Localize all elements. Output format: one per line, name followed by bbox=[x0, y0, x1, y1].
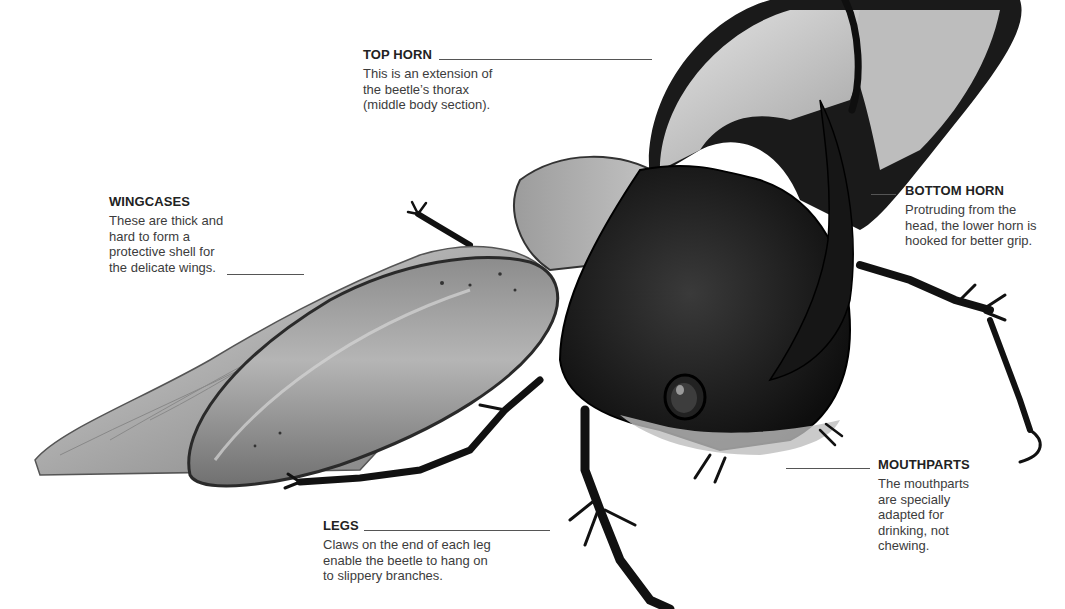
back-leg-upper bbox=[408, 202, 470, 245]
leader-line-bottom-horn bbox=[871, 194, 896, 195]
callout-title: WINGCASES bbox=[109, 194, 223, 210]
callout-legs: LEGS Claws on the end of each leg enable… bbox=[323, 518, 491, 584]
callout-mouthparts: MOUTHPARTS The mouthparts are specially … bbox=[878, 457, 970, 554]
leader-line-wingcases bbox=[227, 274, 304, 275]
callout-text: This is an extension of the beetle’s tho… bbox=[363, 66, 492, 113]
callout-title: LEGS bbox=[323, 518, 491, 534]
callout-bottom-horn: BOTTOM HORN Protruding from the head, th… bbox=[905, 183, 1037, 249]
front-leg-center bbox=[570, 410, 670, 609]
callout-title: TOP HORN bbox=[363, 47, 492, 63]
callout-text: Claws on the end of each leg enable the … bbox=[323, 537, 491, 584]
eye bbox=[665, 375, 705, 419]
callout-text: These are thick and hard to form a prote… bbox=[109, 213, 223, 275]
wingcase bbox=[189, 258, 558, 486]
leader-line-mouthparts bbox=[786, 468, 870, 469]
front-leg-right bbox=[860, 265, 1040, 462]
leader-line-legs bbox=[364, 530, 550, 531]
callout-text: The mouthparts are specially adapted for… bbox=[878, 476, 970, 554]
callout-title: MOUTHPARTS bbox=[878, 457, 970, 473]
leader-line-top-horn bbox=[439, 59, 652, 60]
callout-wingcases: WINGCASES These are thick and hard to fo… bbox=[109, 194, 223, 275]
callout-title: BOTTOM HORN bbox=[905, 183, 1037, 199]
callout-top-horn: TOP HORN This is an extension of the bee… bbox=[363, 47, 492, 113]
callout-text: Protruding from the head, the lower horn… bbox=[905, 202, 1037, 249]
